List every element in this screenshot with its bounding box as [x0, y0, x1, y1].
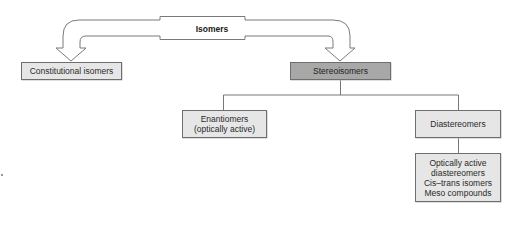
- node-label: Constitutional isomers: [30, 66, 114, 76]
- node-enantiomers: Enantiomers (optically active): [182, 110, 267, 138]
- node-diastereomers: Diastereomers: [415, 110, 501, 138]
- node-stereoisomers: Stereoisomers: [290, 62, 391, 80]
- node-label-line-3: Cis–trans isomers: [424, 178, 492, 188]
- node-label-line-4: Meso compounds: [424, 188, 491, 198]
- root-node-isomers: Isomers: [172, 23, 252, 35]
- node-constitutional-isomers: Constitutional isomers: [21, 62, 122, 80]
- node-label-line-1: Enantiomers: [201, 114, 249, 124]
- node-label-line-2: diastereomers: [431, 168, 485, 178]
- node-label-line-1: Optically active: [429, 158, 486, 168]
- node-label: Diastereomers: [430, 119, 485, 129]
- node-label-line-2: (optically active): [194, 124, 255, 134]
- node-label: Stereoisomers: [313, 66, 368, 76]
- margin-artifact: [1, 174, 3, 176]
- node-diastereomer-types: Optically active diastereomers Cis–trans…: [415, 153, 501, 202]
